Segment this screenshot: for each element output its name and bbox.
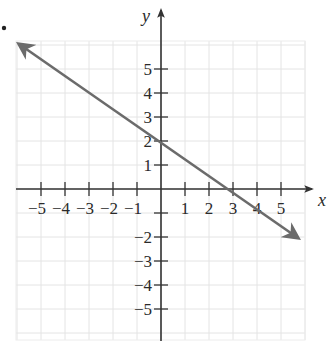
x-tick-label: 2 (205, 199, 214, 218)
x-axis-label: x (317, 190, 326, 210)
y-tick-label: −4 (134, 276, 153, 295)
x-tick-label: −5 (28, 199, 46, 218)
y-tick-label: 5 (144, 60, 153, 79)
x-tick-label: −2 (100, 199, 118, 218)
axes (16, 10, 312, 341)
x-tick-label: −4 (52, 199, 71, 218)
bullet-dot (2, 26, 6, 30)
coordinate-plane: −5−4−3−2−11234554321−2−3−4−5 x y (0, 0, 335, 349)
x-tick-label: 3 (229, 199, 238, 218)
x-tick-label: 5 (277, 199, 286, 218)
y-tick-label: −2 (134, 228, 152, 247)
y-tick-label: 1 (144, 156, 153, 175)
y-tick-label: 4 (144, 84, 153, 103)
y-tick-label: 3 (144, 108, 153, 127)
x-tick-label: −3 (76, 199, 94, 218)
y-axis-label: y (140, 6, 150, 26)
y-tick-label: −5 (134, 300, 152, 319)
x-tick-label: 1 (181, 199, 190, 218)
x-tick-label: −1 (124, 199, 142, 218)
y-tick-label: −3 (134, 252, 152, 271)
